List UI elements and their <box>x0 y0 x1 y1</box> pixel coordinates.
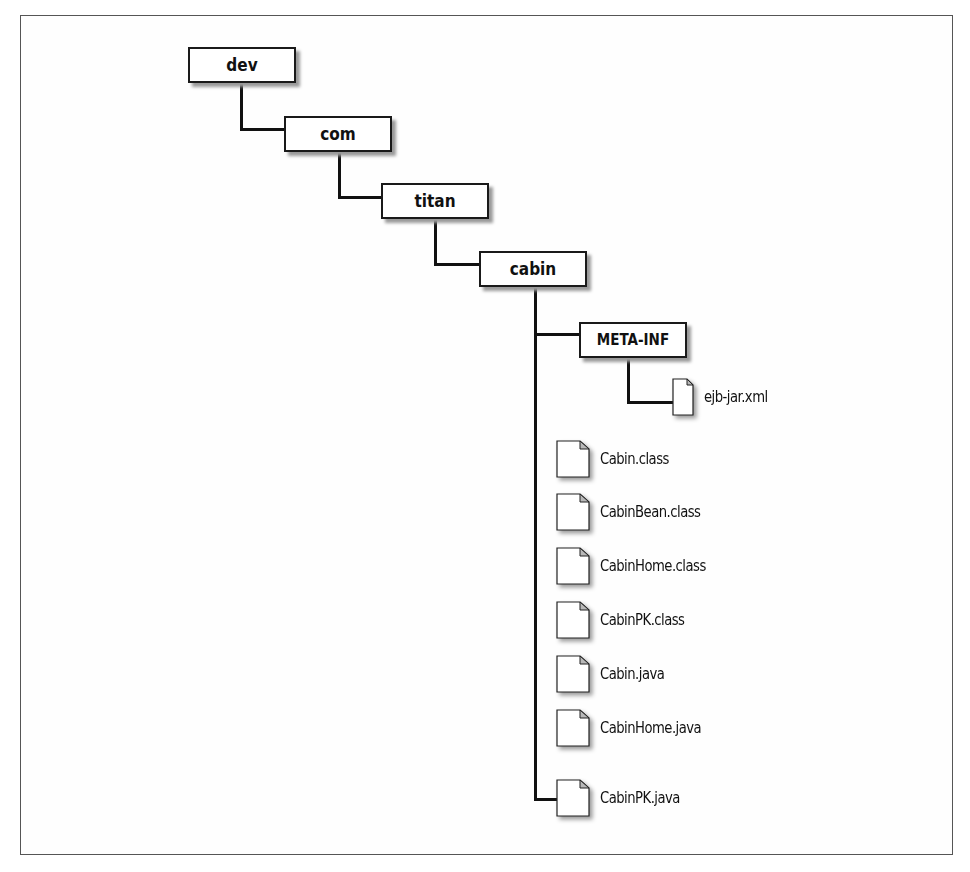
document-icon <box>556 547 590 585</box>
file-cabinhome-class: CabinHome.class <box>556 547 720 585</box>
file-ejb-jar-xml: ejb-jar.xml <box>672 378 776 416</box>
file-label: CabinHome.java <box>600 719 701 737</box>
document-icon <box>556 779 590 817</box>
directory-label: dev <box>226 55 257 75</box>
file-label: Cabin.class <box>600 450 669 468</box>
file-label: CabinPK.java <box>600 789 680 807</box>
file-label: CabinHome.class <box>600 557 706 575</box>
connector-titan-cabin-vertical <box>434 220 437 265</box>
diagram-frame <box>20 15 953 855</box>
file-cabinpk-class: CabinPK.class <box>556 601 696 639</box>
directory-label: titan <box>414 191 455 211</box>
connector-com-titan-vertical <box>338 152 341 198</box>
file-label: Cabin.java <box>600 665 664 683</box>
connector-dev-com-horizontal <box>240 128 284 131</box>
connector-metainf-file-horizontal <box>627 401 673 404</box>
connector-cabin-metainf <box>534 333 580 336</box>
directory-meta-inf: META-INF <box>579 322 687 358</box>
document-icon <box>556 655 590 693</box>
directory-cabin: cabin <box>479 251 587 287</box>
directory-dev: dev <box>188 47 296 83</box>
document-icon <box>556 601 590 639</box>
connector-dev-com-vertical <box>240 84 243 130</box>
document-icon <box>556 440 590 478</box>
file-cabin-java: Cabin.java <box>556 655 673 693</box>
file-label: CabinPK.class <box>600 611 684 629</box>
connector-cabin-trunk <box>534 287 537 800</box>
connector-titan-cabin-horizontal <box>434 263 480 266</box>
directory-titan: titan <box>381 183 489 219</box>
file-cabin-class: Cabin.class <box>556 440 678 478</box>
document-icon <box>672 378 694 416</box>
directory-label: com <box>320 124 356 144</box>
directory-com: com <box>284 116 392 152</box>
connector-metainf-file-vertical <box>627 359 630 403</box>
file-label: CabinBean.class <box>600 503 700 521</box>
connector-com-titan-horizontal <box>338 196 382 199</box>
directory-label: META-INF <box>597 331 669 349</box>
directory-label: cabin <box>510 259 556 279</box>
document-icon <box>556 709 590 747</box>
file-cabinhome-java: CabinHome.java <box>556 709 715 747</box>
connector-cabin-last-file <box>534 798 557 801</box>
file-cabinpk-java: CabinPK.java <box>556 779 691 817</box>
file-cabinbean-class: CabinBean.class <box>556 493 714 531</box>
file-label: ejb-jar.xml <box>704 388 768 406</box>
document-icon <box>556 493 590 531</box>
